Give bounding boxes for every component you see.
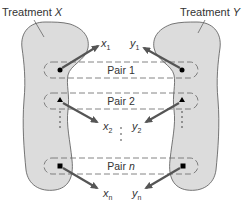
treatment-x-blob — [22, 22, 89, 190]
treatment-y-label: Treatment Y — [180, 6, 241, 18]
treatment-y-blob — [154, 22, 221, 190]
square-marker-icon — [58, 164, 63, 169]
yn-label: yn — [131, 187, 142, 201]
paired-design-diagram: Treatment X Treatment Y Pair 1 x1 y1 Pai… — [0, 0, 242, 205]
y1-label: y1 — [129, 37, 140, 51]
y2-label: y2 — [131, 120, 142, 134]
treatment-x-label: Treatment X — [2, 6, 63, 18]
pair-1-label: Pair 1 — [107, 64, 135, 76]
xn-label: xn — [102, 187, 113, 201]
pair-n-label: Pair n — [107, 160, 135, 172]
x2-label: x2 — [102, 120, 113, 134]
circle-marker-icon — [58, 68, 63, 73]
pair-2-label: Pair 2 — [107, 95, 135, 107]
circle-marker-icon — [180, 68, 185, 73]
x1-label: x1 — [100, 37, 111, 51]
ellipsis-dots — [59, 111, 183, 141]
square-marker-icon — [181, 164, 186, 169]
